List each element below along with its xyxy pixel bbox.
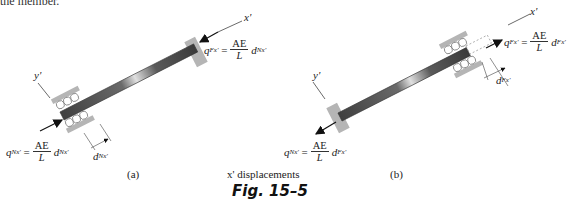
y-axis-line-a [38,83,50,98]
force-arrow-near-a [40,120,62,131]
displacement-label-a: dNx' [93,150,108,162]
equation-far-force-a: qFx' = AEL dNx' [204,38,266,61]
panel-a-label: (a) [127,168,139,180]
axis-x-label-b: x' [530,6,537,17]
figure-title: Fig. 15–5 [232,182,308,200]
equation-near-force-a: qNx' = AEL dNx' [6,140,69,163]
axis-y-label-a: y' [34,70,41,81]
figure-subtitle: x' displacements [227,168,300,180]
displacement-label-b: dFx' [496,74,510,86]
force-arrow-far-b [486,40,502,48]
axis-x-label-a: x' [244,12,251,23]
displacement-arrow-a [91,139,108,148]
panel-b-label: (b) [390,168,403,180]
equation-far-force-b: qFx' = AEL dFx' [504,30,566,53]
equation-near-force-b: qNx' = AEL dFx' [284,140,346,163]
x-axis-line-a [218,21,242,32]
force-arrow-near-b [316,122,336,134]
bar-b [338,48,470,121]
axis-y-label-b: y' [313,70,320,81]
bar-a [60,44,198,120]
